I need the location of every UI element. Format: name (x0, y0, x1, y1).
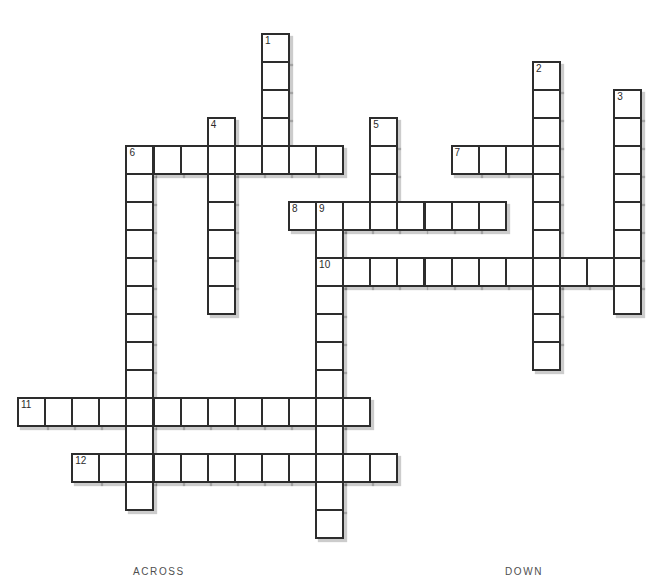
grid-cell[interactable] (153, 453, 182, 483)
grid-cell[interactable] (505, 257, 534, 287)
grid-cell[interactable] (207, 257, 236, 287)
grid-cell-4[interactable]: 4 (207, 117, 236, 147)
grid-cell[interactable] (207, 201, 236, 231)
grid-cell[interactable] (261, 453, 290, 483)
grid-cell[interactable] (125, 285, 154, 315)
grid-cell[interactable] (532, 229, 561, 259)
grid-cell[interactable] (369, 257, 398, 287)
grid-cell[interactable] (125, 257, 154, 287)
grid-cell-11[interactable]: 11 (17, 397, 46, 427)
grid-cell[interactable] (180, 397, 209, 427)
grid-cell[interactable] (424, 257, 453, 287)
grid-cell[interactable] (261, 117, 290, 147)
grid-cell[interactable] (532, 145, 561, 175)
grid-cell[interactable] (44, 397, 73, 427)
grid-cell[interactable] (98, 453, 127, 483)
grid-cell[interactable] (98, 397, 127, 427)
grid-cell[interactable] (424, 201, 453, 231)
grid-cell[interactable] (234, 397, 263, 427)
grid-cell[interactable] (613, 229, 642, 259)
grid-cell[interactable] (315, 425, 344, 455)
grid-cell-6[interactable]: 6 (125, 145, 154, 175)
grid-cell[interactable] (451, 257, 480, 287)
grid-cell[interactable] (153, 145, 182, 175)
grid-cell[interactable] (369, 453, 398, 483)
grid-cell[interactable] (613, 145, 642, 175)
grid-cell[interactable] (369, 145, 398, 175)
grid-cell[interactable] (207, 145, 236, 175)
grid-cell[interactable] (180, 145, 209, 175)
grid-cell[interactable] (478, 201, 507, 231)
grid-cell[interactable] (478, 257, 507, 287)
grid-cell-7[interactable]: 7 (451, 145, 480, 175)
grid-cell[interactable] (125, 425, 154, 455)
grid-cell[interactable] (451, 201, 480, 231)
grid-cell[interactable] (261, 145, 290, 175)
grid-cell[interactable] (125, 201, 154, 231)
grid-cell[interactable] (207, 285, 236, 315)
grid-cell[interactable] (369, 201, 398, 231)
grid-cell[interactable] (532, 117, 561, 147)
grid-cell[interactable] (613, 285, 642, 315)
grid-cell[interactable] (613, 257, 642, 287)
grid-cell-1[interactable]: 1 (261, 33, 290, 63)
grid-cell[interactable] (288, 397, 317, 427)
grid-cell[interactable] (505, 145, 534, 175)
grid-cell[interactable] (207, 453, 236, 483)
grid-cell[interactable] (613, 173, 642, 203)
grid-cell[interactable] (315, 509, 344, 539)
grid-cell[interactable] (478, 145, 507, 175)
grid-cell[interactable] (125, 481, 154, 511)
grid-cell[interactable] (315, 285, 344, 315)
grid-cell[interactable] (342, 397, 371, 427)
grid-cell[interactable] (288, 145, 317, 175)
grid-cell[interactable] (125, 173, 154, 203)
grid-cell[interactable] (532, 341, 561, 371)
grid-cell[interactable] (125, 229, 154, 259)
grid-cell[interactable] (71, 397, 100, 427)
grid-cell[interactable] (315, 145, 344, 175)
grid-cell[interactable] (207, 229, 236, 259)
grid-cell[interactable] (261, 61, 290, 91)
grid-cell[interactable] (532, 313, 561, 343)
grid-cell[interactable] (396, 257, 425, 287)
grid-cell[interactable] (315, 341, 344, 371)
grid-cell-9[interactable]: 9 (315, 201, 344, 231)
grid-cell[interactable] (125, 341, 154, 371)
grid-cell[interactable] (125, 397, 154, 427)
grid-cell[interactable] (234, 453, 263, 483)
grid-cell[interactable] (180, 453, 209, 483)
grid-cell[interactable] (532, 89, 561, 119)
grid-cell[interactable] (315, 453, 344, 483)
grid-cell-8[interactable]: 8 (288, 201, 317, 231)
grid-cell[interactable] (613, 117, 642, 147)
grid-cell[interactable] (315, 369, 344, 399)
grid-cell[interactable] (342, 257, 371, 287)
grid-cell[interactable] (315, 313, 344, 343)
grid-cell[interactable] (532, 201, 561, 231)
grid-cell[interactable] (261, 397, 290, 427)
grid-cell[interactable] (207, 397, 236, 427)
grid-cell[interactable] (315, 397, 344, 427)
grid-cell-3[interactable]: 3 (613, 89, 642, 119)
grid-cell[interactable] (288, 453, 317, 483)
grid-cell[interactable] (532, 173, 561, 203)
grid-cell[interactable] (125, 453, 154, 483)
grid-cell[interactable] (532, 257, 561, 287)
grid-cell[interactable] (342, 453, 371, 483)
grid-cell[interactable] (261, 89, 290, 119)
grid-cell-10[interactable]: 10 (315, 257, 344, 287)
grid-cell[interactable] (342, 201, 371, 231)
grid-cell[interactable] (315, 229, 344, 259)
grid-cell[interactable] (369, 173, 398, 203)
grid-cell-2[interactable]: 2 (532, 61, 561, 91)
grid-cell-12[interactable]: 12 (71, 453, 100, 483)
grid-cell[interactable] (613, 201, 642, 231)
grid-cell[interactable] (125, 369, 154, 399)
grid-cell[interactable] (396, 201, 425, 231)
grid-cell[interactable] (207, 173, 236, 203)
grid-cell-5[interactable]: 5 (369, 117, 398, 147)
grid-cell[interactable] (153, 397, 182, 427)
grid-cell[interactable] (315, 481, 344, 511)
grid-cell[interactable] (559, 257, 588, 287)
